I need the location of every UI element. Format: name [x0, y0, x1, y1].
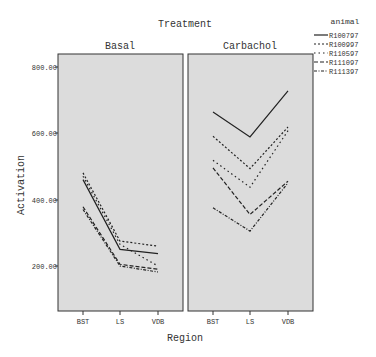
x-tick-bst-carbachol: BST — [207, 318, 220, 326]
legend-label: R100997 — [329, 41, 358, 49]
legend-label: R110597 — [329, 50, 358, 58]
y-axis-label: Activation — [16, 155, 27, 215]
legend: animal R100797R100997R110597R111097R1113… — [314, 17, 360, 76]
panel-title-carbachol: Carbachol — [223, 41, 277, 52]
panel-basal — [58, 54, 183, 311]
legend-label: R100797 — [329, 32, 358, 40]
y-axis: 800.00 600.00 400.00 200.00 — [32, 64, 58, 271]
y-tick-200: 200.00 — [32, 263, 57, 271]
x-tick-bst-basal: BST — [77, 318, 90, 326]
x-axis: BST LS VDB BST LS VDB — [77, 311, 295, 326]
legend-label: R111397 — [329, 68, 358, 76]
chart-title: Treatment — [158, 19, 212, 30]
x-tick-vdb-carbachol: VDB — [282, 318, 295, 326]
y-tick-800: 800.00 — [32, 64, 57, 72]
x-tick-vdb-basal: VDB — [152, 318, 165, 326]
panel-title-basal: Basal — [105, 41, 135, 52]
x-tick-ls-carbachol: LS — [246, 318, 254, 326]
legend-label: R111097 — [329, 59, 358, 67]
chart-root: Treatment Basal Carbachol 800.00 600.00 … — [0, 0, 376, 357]
legend-title: animal — [331, 17, 360, 26]
x-axis-label: Region — [167, 333, 203, 344]
x-tick-ls-basal: LS — [116, 318, 124, 326]
panel-carbachol — [188, 54, 313, 311]
y-tick-400: 400.00 — [32, 197, 57, 205]
y-tick-600: 600.00 — [32, 130, 57, 138]
